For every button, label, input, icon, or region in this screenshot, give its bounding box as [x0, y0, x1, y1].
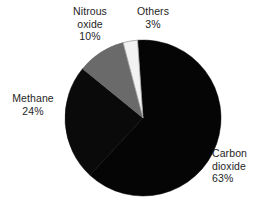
slice-label-nitrous-oxide-line1: Nitrous: [56, 5, 124, 18]
slice-label-others: Others 3%: [124, 5, 182, 30]
slice-label-methane-line1: Methane: [2, 92, 64, 105]
slice-label-nitrous-oxide-line2: oxide: [56, 18, 124, 31]
slice-label-carbon-dioxide: Carbon dioxide 63%: [212, 147, 276, 185]
pie-chart-page: Nitrous oxide 10% Others 3% Methane 24% …: [0, 0, 277, 212]
greenhouse-gas-pie-chart: Nitrous oxide 10% Others 3% Methane 24% …: [0, 0, 277, 212]
slice-label-others-line1: Others: [124, 5, 182, 18]
slice-value-nitrous-oxide: 10%: [56, 30, 124, 43]
slice-value-others: 3%: [124, 18, 182, 31]
slice-label-nitrous-oxide: Nitrous oxide 10%: [56, 5, 124, 43]
slice-value-methane: 24%: [2, 105, 64, 118]
slice-label-carbon-dioxide-line1: Carbon: [212, 147, 276, 160]
slice-label-carbon-dioxide-line2: dioxide: [212, 160, 276, 173]
slice-label-methane: Methane 24%: [2, 92, 64, 117]
pie-slices: [65, 40, 221, 196]
slice-value-carbon-dioxide: 63%: [212, 172, 276, 185]
